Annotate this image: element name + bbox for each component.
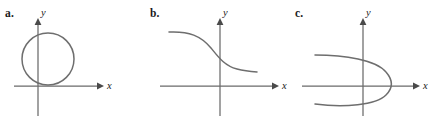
panel-c-x-axis-arrow [413, 83, 420, 90]
panel-c-y-axis-label: y [366, 7, 371, 18]
panel-a-x-axis-arrow [97, 83, 104, 90]
panel-c-x-axis-label: x [423, 80, 428, 91]
panel-c-curve-parabola [315, 55, 391, 106]
panel-b-x-axis-arrow [272, 83, 279, 90]
panel-c-y-axis-arrow [360, 18, 367, 25]
panel-b-plot [145, 0, 290, 122]
panel-a-y-axis-arrow [35, 18, 42, 25]
panel-b-x-axis-label: x [282, 80, 287, 91]
panel-a-plot [0, 0, 145, 122]
panel-b-curve-sigmoid [169, 32, 257, 72]
figure-container: a. x y b. x y c. [0, 0, 435, 122]
panel-b-y-axis-label: y [223, 7, 228, 18]
panel-a-curve-circle [22, 33, 74, 85]
panel-c-plot [290, 0, 435, 122]
panel-b: b. x y [145, 0, 290, 122]
panel-c: c. x y [290, 0, 435, 122]
panel-b-y-axis-arrow [217, 18, 224, 25]
panel-a: a. x y [0, 0, 145, 122]
panel-a-y-axis-label: y [41, 7, 46, 18]
panel-a-x-axis-label: x [107, 80, 112, 91]
